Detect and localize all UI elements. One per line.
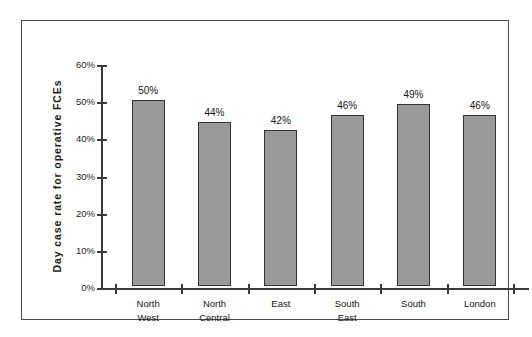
bar: [397, 104, 430, 286]
x-tick-mark: [248, 284, 250, 294]
x-tick-mark: [447, 284, 449, 294]
y-tick-label: 20%: [76, 207, 95, 221]
y-tick-mark: [97, 288, 107, 290]
plot-area: 0%10%20%30%40%50%60% 50%44%42%46%49%46% …: [101, 65, 529, 288]
bar-value-label: 49%: [389, 89, 439, 101]
y-tick-label: 40%: [76, 132, 95, 146]
bar: [331, 115, 364, 286]
bar-value-label: 44%: [190, 107, 240, 119]
y-tick-mark: [97, 102, 107, 104]
bar-value-label: 42%: [256, 115, 306, 127]
bar: [463, 115, 496, 286]
x-category-label: North West: [113, 297, 183, 324]
x-category-label: East: [246, 297, 316, 311]
x-tick-mark: [181, 284, 183, 294]
y-tick-label: 30%: [76, 170, 95, 184]
bar-value-label: 50%: [123, 85, 173, 97]
y-tick-label: 0%: [81, 281, 95, 295]
y-tick-mark: [97, 139, 107, 141]
y-tick-label: 10%: [76, 244, 95, 258]
y-tick-mark: [97, 177, 107, 179]
x-tick-mark: [380, 284, 382, 294]
x-tick-mark: [513, 284, 515, 294]
bar-value-label: 46%: [455, 100, 505, 112]
x-category-label: South: [379, 297, 449, 311]
x-category-label: South East: [312, 297, 382, 324]
y-tick-mark: [97, 214, 107, 216]
y-axis-title: Day case rate for operative FCEs: [48, 56, 66, 296]
y-tick-label: 50%: [76, 95, 95, 109]
x-tick-mark: [314, 284, 316, 294]
x-tick-mark: [115, 284, 117, 294]
bar-value-label: 46%: [322, 100, 372, 112]
bar: [132, 100, 165, 286]
y-tick-mark: [97, 251, 107, 253]
bar: [264, 130, 297, 286]
x-category-label: London: [445, 297, 515, 311]
bar: [198, 122, 231, 286]
chart-frame: Day case rate for operative FCEs 0%10%20…: [21, 20, 509, 320]
y-tick-label: 60%: [76, 58, 95, 72]
x-category-label: North Central: [180, 297, 250, 324]
y-tick-mark: [97, 65, 107, 67]
